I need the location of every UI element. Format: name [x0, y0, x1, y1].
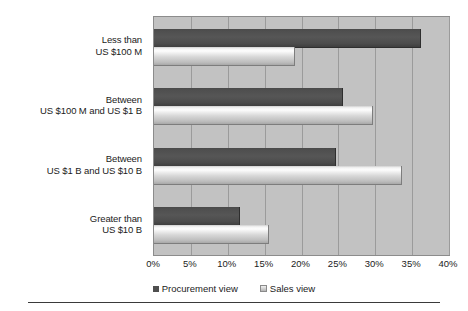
- legend-swatch-icon: [260, 285, 267, 292]
- legend-swatch-icon: [153, 286, 159, 292]
- x-tick-label: 10%: [217, 258, 236, 270]
- bar-procurement: [154, 148, 336, 167]
- bottom-divider: [28, 302, 440, 303]
- gridline: [449, 17, 450, 255]
- category-label: BetweenUS $1 B and US $10 B: [0, 153, 142, 176]
- category-label-line: Greater than: [0, 213, 142, 225]
- bar-procurement: [154, 207, 240, 226]
- bar-sales: [154, 166, 402, 185]
- x-tick-label: 0%: [146, 258, 160, 270]
- bar-procurement: [154, 88, 343, 107]
- category-label: Greater thanUS $10 B: [0, 213, 142, 236]
- category-label-line: US $100 M and US $1 B: [0, 105, 142, 117]
- x-tick-label: 30%: [365, 258, 384, 270]
- category-label-line: Less than: [0, 34, 142, 46]
- bar-sales: [154, 225, 269, 244]
- category-label: BetweenUS $100 M and US $1 B: [0, 94, 142, 117]
- bar-sales: [154, 106, 373, 125]
- legend-item[interactable]: Sales view: [260, 283, 315, 294]
- category-axis-labels: Less thanUS $100 MBetweenUS $100 M and U…: [0, 16, 148, 254]
- x-tick-label: 5%: [183, 258, 197, 270]
- x-tick-label: 40%: [438, 258, 457, 270]
- category-label-line: Between: [0, 94, 142, 106]
- category-label-line: US $100 M: [0, 46, 142, 58]
- legend-label: Procurement view: [162, 283, 238, 294]
- chart-legend: Procurement viewSales view: [0, 283, 468, 294]
- bar-sales: [154, 47, 295, 66]
- chart-figure: Less thanUS $100 MBetweenUS $100 M and U…: [0, 0, 468, 311]
- x-tick-label: 15%: [254, 258, 273, 270]
- x-tick-label: 35%: [402, 258, 421, 270]
- bar-procurement: [154, 29, 421, 48]
- category-label-line: US $10 B: [0, 224, 142, 236]
- x-tick-label: 25%: [328, 258, 347, 270]
- bar-series-container: [154, 17, 449, 255]
- category-label-line: US $1 B and US $10 B: [0, 165, 142, 177]
- category-label: Less thanUS $100 M: [0, 34, 142, 57]
- x-axis-tick-labels: 0%5%10%15%20%25%30%35%40%: [153, 258, 448, 272]
- legend-item[interactable]: Procurement view: [153, 283, 238, 294]
- legend-label: Sales view: [270, 283, 315, 294]
- plot-area: [153, 16, 450, 256]
- x-tick-label: 20%: [291, 258, 310, 270]
- category-label-line: Between: [0, 153, 142, 165]
